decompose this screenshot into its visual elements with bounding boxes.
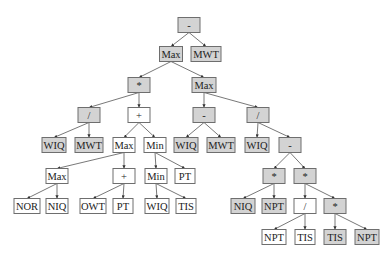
node-label: * — [332, 201, 337, 212]
tree-node: Min — [144, 138, 166, 153]
node-label: MWT — [208, 140, 234, 151]
tree-node: - — [279, 138, 301, 153]
tree-edge — [57, 153, 124, 169]
node-label: Min — [147, 171, 165, 182]
node-label: + — [136, 110, 142, 121]
tree-node: MWT — [191, 47, 221, 62]
node-label: Max — [47, 171, 67, 182]
tree-node: Max — [46, 169, 68, 184]
tree-node: / — [247, 108, 269, 123]
tree-node: NIQ — [231, 199, 255, 214]
tree-node: * — [294, 169, 316, 184]
tree-edge — [93, 184, 124, 199]
node-label: WIQ — [247, 140, 268, 151]
tree-edge — [204, 123, 221, 138]
node-label: / — [257, 110, 260, 121]
tree-node: MWT — [75, 138, 103, 153]
tree-edge — [155, 153, 185, 169]
tree-node: NPT — [262, 230, 286, 245]
node-label: - — [187, 20, 191, 31]
tree-node: * — [128, 78, 150, 93]
node-label: * — [136, 80, 141, 91]
node-label: NPT — [357, 232, 377, 243]
tree-node: WIQ — [42, 138, 66, 153]
tree-node: - — [178, 18, 200, 33]
node-label: NIQ — [48, 201, 67, 212]
tree-node: NPT — [355, 230, 379, 245]
tree-node: / — [294, 199, 316, 214]
node-label: Max — [161, 49, 181, 60]
tree-node: TIS — [324, 230, 346, 245]
node-label: TIS — [327, 232, 343, 243]
tree-edge — [89, 93, 139, 108]
node-label: * — [271, 171, 276, 182]
tree-edge — [27, 184, 57, 199]
tree-node: PT — [113, 199, 133, 214]
tree-edge — [274, 153, 290, 169]
tree-node: TIS — [295, 230, 315, 245]
node-label: * — [302, 171, 307, 182]
tree-node: * — [324, 199, 346, 214]
tree-edge — [335, 214, 367, 230]
tree-edge — [171, 62, 204, 78]
node-label: NPT — [264, 232, 284, 243]
tree-node: WIQ — [145, 199, 169, 214]
tree-edge — [139, 62, 171, 78]
tree-edge — [156, 184, 186, 199]
tree-edge — [156, 184, 157, 199]
node-label: PT — [179, 171, 192, 182]
node-label: Max — [194, 80, 214, 91]
tree-edge — [186, 123, 204, 138]
tree-node: NOR — [14, 199, 40, 214]
node-label: / — [304, 201, 307, 212]
node-label: MWT — [193, 49, 219, 60]
node-label: WIQ — [176, 140, 197, 151]
tree-node: PT — [175, 169, 195, 184]
tree-node: - — [193, 108, 215, 123]
tree-node: NPT — [262, 199, 286, 214]
node-label: NOR — [16, 201, 38, 212]
node-label: Max — [114, 140, 134, 151]
node-label: WIQ — [147, 201, 168, 212]
node-label: - — [202, 110, 206, 121]
node-label: MWT — [76, 140, 102, 151]
tree-edge — [54, 123, 89, 138]
node-label: OWT — [81, 201, 105, 212]
tree-node: WIQ — [174, 138, 198, 153]
tree-edge — [155, 153, 156, 169]
node-label: Min — [146, 140, 164, 151]
tree-node: + — [113, 169, 135, 184]
tree-edge — [139, 123, 155, 138]
tree-node: Max — [160, 47, 183, 62]
tree-node: MWT — [207, 138, 235, 153]
tree-edge — [124, 123, 139, 138]
tree-node: OWT — [80, 199, 106, 214]
tree-edge — [305, 184, 335, 199]
tree-node: Max — [192, 78, 216, 93]
tree-node: / — [78, 108, 100, 123]
tree-node: WIQ — [245, 138, 269, 153]
node-label: NIQ — [234, 201, 253, 212]
tree-edge — [171, 33, 189, 47]
tree-edge — [274, 214, 305, 230]
node-label: TIS — [178, 201, 194, 212]
tree-node: Max — [113, 138, 135, 153]
tree-node: TIS — [176, 199, 196, 214]
node-label: TIS — [297, 232, 313, 243]
node-label: + — [121, 171, 127, 182]
node-label: PT — [117, 201, 130, 212]
tree-edge — [123, 184, 124, 199]
node-label: NPT — [264, 201, 284, 212]
tree-node: NIQ — [46, 199, 68, 214]
tree-node: * — [263, 169, 285, 184]
tree-edge — [204, 93, 258, 108]
node-label: / — [88, 110, 91, 121]
tree-edge — [290, 153, 305, 169]
tree-edge — [258, 123, 290, 138]
node-label: WIQ — [44, 140, 65, 151]
tree-edge — [257, 123, 258, 138]
node-label: - — [288, 140, 292, 151]
tree-node: + — [128, 108, 150, 123]
expression-tree-diagram: -MaxMWT*Max/+-/WIQMWTMaxMinWIQMWTWIQ-Max… — [0, 0, 392, 257]
tree-edge — [243, 184, 274, 199]
